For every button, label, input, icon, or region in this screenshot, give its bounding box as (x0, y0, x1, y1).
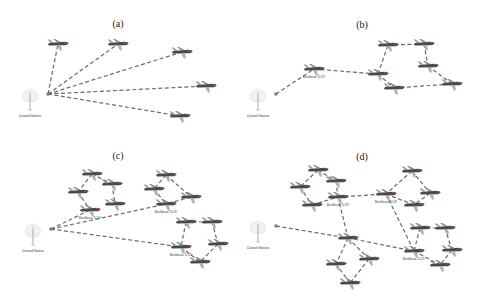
uav-plane-icon (171, 242, 192, 254)
ground-station-icon (251, 221, 266, 242)
uav-plane-icon (359, 254, 380, 266)
uav-plane-icon (68, 187, 89, 199)
uav-plane-icon (376, 189, 397, 201)
ground-station-label: Ground Station (22, 249, 44, 253)
uav-plane-icon (410, 223, 431, 235)
panel-title: (c) (112, 150, 123, 162)
uav-plane-icon (170, 111, 191, 123)
backbone-uav-label: Backbone UAV (327, 203, 350, 207)
uav-plane-icon (302, 200, 323, 212)
ground-station-label: Ground Station (247, 114, 269, 118)
link-line (51, 204, 166, 229)
link-line (48, 86, 206, 94)
antenna-icon (47, 93, 50, 96)
link-line (200, 244, 218, 262)
link-line (378, 45, 388, 74)
uav-plane-icon (442, 79, 463, 91)
uav-plane-icon (190, 257, 211, 269)
link-line (336, 238, 348, 264)
link-line (276, 69, 314, 94)
panel-title: (d) (356, 151, 368, 163)
ground-station-label: Ground Station (19, 114, 41, 118)
antenna-icon (275, 93, 278, 96)
uav-plane-icon (414, 39, 435, 51)
uav-plane-icon (338, 233, 359, 245)
uav-plane-icon (290, 182, 311, 194)
panel-d: (d)Ground StationBackbone UAVBackbone UA… (247, 151, 463, 290)
uav-plane-icon (402, 166, 423, 178)
link-line (181, 222, 186, 247)
link-line (276, 226, 348, 238)
uav-plane-icon (156, 199, 177, 211)
link-line (48, 94, 180, 116)
uav-plane-icon (384, 83, 405, 95)
uav-plane-icon (80, 205, 101, 217)
uav-plane-icon (378, 40, 399, 52)
link-line (428, 66, 452, 84)
backbone-uav-label: Backbone UAV (403, 257, 426, 261)
panel-c: (c)Ground StationBackbone UAVBackbone UA… (22, 150, 229, 269)
link-line (51, 229, 181, 247)
uav-plane-icon (404, 200, 425, 212)
uav-plane-icon (208, 239, 229, 251)
panel-b: (b)Ground StationBackbone UAV (247, 19, 463, 118)
ground-station-label: Ground Station (247, 246, 269, 250)
uav-plane-icon (82, 169, 103, 181)
uav-plane-icon (176, 217, 197, 229)
ground-station-icon (23, 89, 38, 110)
link-line (48, 44, 118, 94)
uav-plane-icon (328, 192, 349, 204)
uav-plane-icon (326, 176, 347, 188)
panel-title: (b) (356, 19, 368, 31)
antenna-icon (275, 225, 278, 228)
uav-plane-icon (304, 64, 325, 76)
antenna-icon (50, 228, 53, 231)
uav-plane-icon (181, 192, 202, 204)
uav-plane-icon (442, 245, 463, 257)
panel-title: (a) (112, 18, 123, 30)
link-line (78, 174, 92, 192)
backbone-uav-label: Backbone UAV (375, 200, 398, 204)
panel-a: (a)Ground Station (19, 18, 217, 123)
backbone-uav-label: Backbone UAV (79, 216, 102, 220)
uav-plane-icon (102, 179, 123, 191)
backbone-uav-label: Backbone UAV (155, 210, 178, 214)
backbone-uav-label: Backbone UAV (303, 75, 326, 79)
uav-plane-icon (202, 217, 223, 229)
backbone-uav-label: Backbone UAV (170, 253, 193, 257)
uav-plane-icon (430, 260, 451, 272)
link-line (48, 44, 58, 94)
uav-plane-icon (48, 39, 69, 51)
uav-network-diagram: (a)Ground Station(b)Ground StationBackbo… (0, 0, 481, 307)
link-line (348, 238, 414, 251)
uav-plane-icon (404, 246, 425, 258)
link-line (386, 171, 412, 194)
link-line (166, 175, 191, 197)
uav-plane-icon (156, 170, 177, 182)
ground-station-icon (26, 224, 41, 245)
link-line (350, 259, 369, 283)
uav-plane-icon (105, 199, 126, 211)
uav-plane-icon (435, 223, 456, 235)
uav-plane-icon (144, 184, 165, 196)
uav-plane-icon (196, 81, 217, 93)
uav-plane-icon (340, 278, 361, 290)
uav-plane-icon (108, 39, 129, 51)
ground-station-icon (251, 89, 266, 110)
uav-plane-icon (368, 69, 389, 81)
link-line (414, 228, 420, 251)
uav-plane-icon (172, 47, 193, 59)
uav-plane-icon (326, 259, 347, 271)
link-line (300, 170, 318, 187)
